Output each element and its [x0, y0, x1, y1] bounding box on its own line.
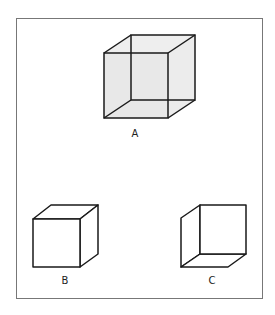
cube-b — [33, 205, 98, 267]
label-b: B — [62, 275, 69, 286]
cube-c — [181, 205, 246, 267]
label-c: C — [209, 275, 216, 286]
cube-a — [104, 35, 195, 118]
label-a: A — [132, 128, 139, 139]
necker-cube-figure: A B C — [0, 0, 275, 315]
